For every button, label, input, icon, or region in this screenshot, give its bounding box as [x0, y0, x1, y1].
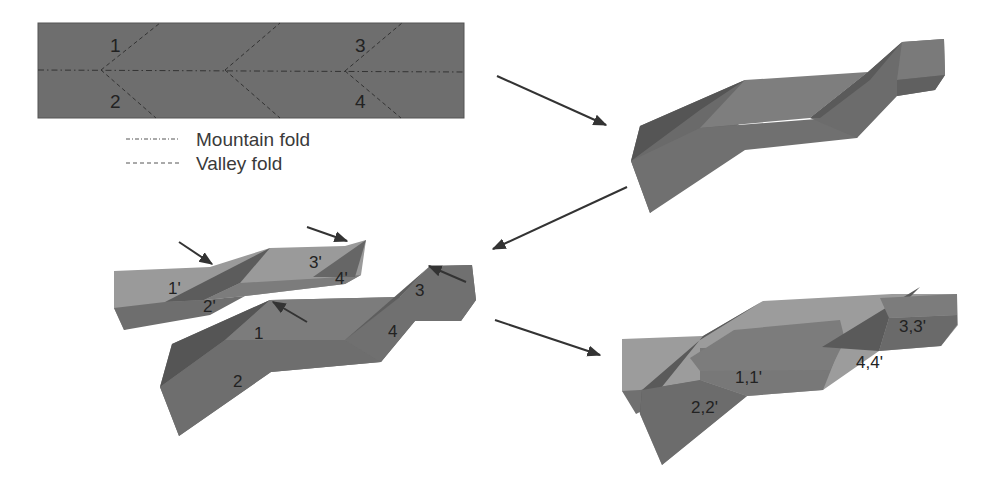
- lower-label-1: 1: [254, 324, 263, 343]
- folded-piece: [631, 39, 945, 213]
- assembled-label-44p: 4,4': [856, 353, 883, 372]
- legend-valley-label: Valley fold: [196, 153, 282, 174]
- flat-strip: 1 2 3 4: [38, 23, 464, 118]
- assembled-label-11p: 1,1': [735, 368, 762, 387]
- pointer-arrow-3p: [307, 227, 347, 241]
- upper-label-4p: 4': [335, 269, 348, 288]
- arrow-to-assembled: [495, 320, 600, 355]
- upper-label-3p: 3': [309, 253, 322, 272]
- lower-label-3: 3: [415, 281, 424, 300]
- separated-pieces: 1' 2' 3' 4' 1 2 3 4: [114, 227, 476, 436]
- legend-mountain-label: Mountain fold: [196, 129, 310, 150]
- legend: Mountain fold Valley fold: [126, 129, 310, 174]
- strip-label-4: 4: [355, 91, 366, 112]
- strip-label-3: 3: [355, 35, 366, 56]
- upper-label-2p: 2': [203, 297, 216, 316]
- folding-diagram: 1 2 3 4 Mountain fold Valley fold: [0, 0, 996, 487]
- lower-label-2: 2: [233, 372, 242, 391]
- pointer-arrow-1p: [179, 242, 212, 264]
- strip-label-2: 2: [110, 91, 121, 112]
- upper-label-1p: 1': [168, 279, 181, 298]
- assembled-piece: 1,1' 2,2' 3,3' 4,4': [622, 287, 958, 465]
- assembled-label-33p: 3,3': [899, 317, 926, 336]
- arrow-to-folded: [497, 76, 606, 125]
- lower-label-4: 4: [388, 322, 397, 341]
- arrow-to-separated: [493, 187, 627, 249]
- strip-label-1: 1: [110, 35, 121, 56]
- assembled-label-22p: 2,2': [691, 398, 718, 417]
